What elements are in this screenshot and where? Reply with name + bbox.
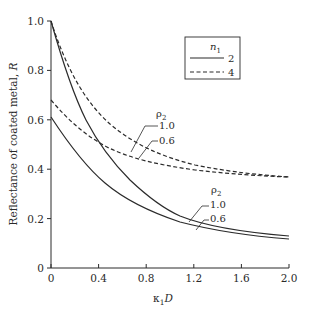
legend: n1 2 4 (185, 37, 240, 79)
curve-n4-rho1.0 (51, 21, 289, 177)
legend-solid-label: 2 (228, 53, 234, 64)
x-tick-label: 0.8 (138, 272, 155, 284)
solid-rho-1.0-label: 1.0 (210, 199, 226, 210)
y-tick-label: 0 (37, 262, 44, 274)
legend-dashed-label: 4 (228, 67, 234, 78)
x-ticks: 0 0.4 0.8 1.2 1.6 2.0 (48, 264, 298, 284)
x-tick-label: 2.0 (281, 272, 298, 284)
x-tick-label: 1.2 (185, 272, 202, 284)
y-tick-label: 0.4 (27, 163, 44, 175)
y-tick-label: 0.8 (27, 64, 44, 76)
x-tick-label: 0.4 (90, 272, 107, 284)
y-tick-label: 1.0 (27, 15, 44, 27)
dashed-rho-0.6-label: 0.6 (159, 135, 175, 146)
y-axis-label: Reflectance of coated metal, R (7, 62, 19, 225)
rho-label: ρ2 (211, 184, 221, 198)
dashed-rho-1.0-label: 1.0 (159, 120, 175, 131)
x-tick-label: 1.6 (233, 272, 250, 284)
y-ticks: 0 0.2 0.4 0.6 0.8 1.0 (27, 15, 51, 274)
x-axis-label: κ1D (153, 292, 173, 307)
y-tick-label: 0.6 (27, 114, 44, 126)
reflectance-chart: 0 0.2 0.4 0.6 0.8 1.0 0 0.4 0.8 1.2 1.6 … (0, 0, 309, 314)
x-tick-label: 0 (48, 272, 55, 284)
y-tick-label: 0.2 (27, 213, 44, 225)
solid-rho-annotation: ρ2 1.0 0.6 (189, 184, 226, 230)
solid-rho-0.6-label: 0.6 (210, 213, 226, 224)
